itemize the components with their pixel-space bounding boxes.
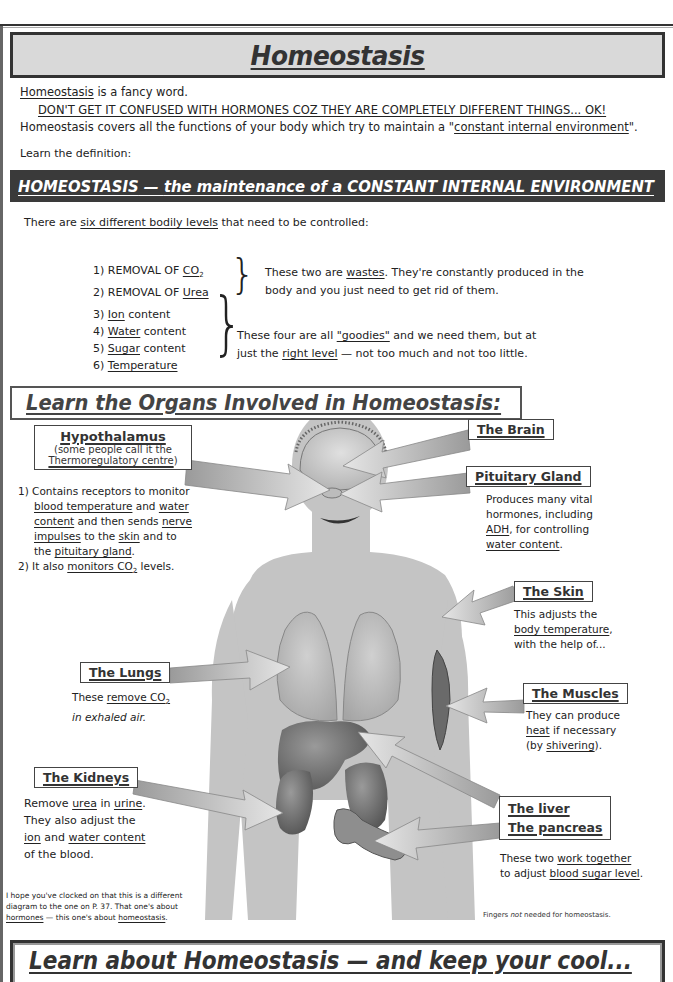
term-body-temperature: body temperature: [514, 623, 609, 635]
desc-line: 2) It also monitors CO2 levels.: [18, 559, 228, 579]
subscript: 2: [199, 271, 203, 279]
list-item-sugar: 5) Sugar content: [93, 340, 186, 357]
desc-text: , for controlling: [509, 523, 589, 535]
term-shivering: shivering: [546, 739, 594, 751]
paren: ): [174, 455, 178, 466]
desc-line: heat if necessary: [526, 723, 620, 738]
pancreas-title: The pancreas: [508, 818, 602, 837]
desc-text: in: [97, 797, 114, 810]
label-pituitary-gland: Pituitary Gland: [466, 466, 591, 487]
list-item-rest: content: [140, 342, 186, 355]
definition-body: the maintenance of a CONSTANT INTERNAL E…: [164, 177, 654, 196]
term-remove-co2: remove CO2: [107, 691, 170, 703]
page-title-box: Homeostasis: [10, 32, 665, 78]
desc-line: ion and water content: [24, 829, 146, 846]
term-impulses: impulses: [34, 530, 81, 542]
desc-text: and to: [140, 530, 177, 542]
hypothalamus-title: Hypothalamus: [39, 429, 187, 444]
intro-line-1: Homeostasis is a fancy word.: [20, 85, 188, 99]
label-lungs: The Lungs: [80, 662, 170, 683]
desc-line: content and then sends nerve: [18, 514, 228, 529]
list-item-term: CO: [183, 264, 199, 277]
desc-text: and then sends: [74, 515, 162, 527]
term-skin: skin: [119, 530, 140, 542]
list-item-rest: content: [125, 308, 171, 321]
desc-text: .: [640, 867, 643, 879]
note-text: and we need them, but at: [390, 329, 537, 342]
note-text: body and you just need to get rid of the…: [265, 282, 625, 300]
desc-text: and: [132, 500, 158, 512]
term-adh: ADH: [486, 523, 509, 535]
note-text: just the: [237, 347, 282, 360]
brain-title: The Brain: [477, 422, 545, 437]
term-hormones: hormones: [6, 913, 43, 922]
skin-title: The Skin: [523, 584, 584, 599]
desc-line: impulses to the skin and to: [18, 529, 228, 544]
intro-line-1-text: is a fancy word.: [94, 85, 188, 99]
definition-bar: HOMEOSTASIS — the maintenance of a CONST…: [10, 170, 665, 202]
desc-text: (by: [526, 739, 546, 751]
list-item-term: Sugar: [108, 342, 140, 355]
wastes-list: 1) REMOVAL OF CO2 2) REMOVAL OF Urea: [93, 262, 209, 301]
liver-title: The liver: [508, 799, 602, 818]
intro-line-3: Homeostasis covers all the functions of …: [20, 120, 638, 134]
note-text: These two are: [265, 266, 346, 279]
fingers-emphasis: not: [510, 911, 521, 919]
intro-term-constant-env: constant internal environment: [454, 120, 629, 134]
term-urine: urine: [114, 797, 142, 810]
desc-text: .: [132, 545, 135, 557]
six-levels-intro: There are six different bodily levels th…: [24, 216, 369, 229]
thermoregulatory-term: Thermoregulatory centre: [48, 455, 173, 466]
definition-text: HOMEOSTASIS — the maintenance of a CONST…: [18, 177, 654, 196]
desc-text: .: [142, 797, 146, 810]
list-item-num: 3): [93, 308, 108, 321]
desc-text: if necessary: [550, 724, 617, 736]
desc-line: water content.: [486, 537, 593, 552]
desc-line: ADH, for controlling: [486, 522, 593, 537]
footer-text: I hope you've clocked on that this is a …: [6, 891, 182, 911]
list-item-term: Water: [108, 325, 141, 338]
intro-line-3-end: ".: [629, 120, 638, 134]
list-item-prefix: 2) REMOVAL OF: [93, 286, 183, 299]
note-term-right-level: right level: [282, 347, 338, 360]
note-text: These four are all: [237, 329, 337, 342]
list-item-prefix: 1) REMOVAL OF: [93, 264, 183, 277]
term-urea: urea: [72, 797, 97, 810]
desc-text: to the: [81, 530, 119, 542]
term-text: remove CO: [107, 691, 166, 703]
desc-text: These two: [500, 852, 557, 864]
note-text: . They're constantly produced in the: [385, 266, 584, 279]
list-item-term: Ion: [108, 308, 125, 321]
pituitary-title: Pituitary Gland: [475, 469, 582, 484]
term-nerve: nerve: [162, 515, 192, 527]
intro-warning: DON'T GET IT CONFUSED WITH HORMONES COZ …: [38, 103, 606, 117]
desc-line: These two work together: [500, 851, 643, 866]
desc-line: blood temperature and water: [18, 499, 228, 514]
desc-text: 2) It also: [18, 560, 67, 572]
desc-line: (by shivering).: [526, 738, 620, 753]
label-skin: The Skin: [514, 581, 593, 602]
term-pituitary-gland: pituitary gland: [55, 545, 132, 557]
list-item-co2: 1) REMOVAL OF CO2: [93, 262, 209, 284]
list-item-num: 4): [93, 325, 108, 338]
fingers-text: needed for homeostasis.: [522, 911, 611, 919]
desc-line: of the blood.: [24, 846, 146, 863]
kidney-icon: [276, 770, 313, 835]
desc-line: the pituitary gland.: [18, 544, 228, 559]
subscript: 2: [166, 698, 170, 706]
bottom-summary-title: Learn about Homeostasis — and keep your …: [29, 947, 632, 975]
label-liver-pancreas: The liver The pancreas: [499, 796, 611, 840]
desc-text: ,: [609, 623, 612, 635]
intro-term-homeostasis: Homeostasis: [20, 85, 94, 99]
desc-text: and: [41, 831, 69, 844]
desc-text: .: [559, 538, 562, 550]
desc-line: body temperature,: [514, 622, 613, 637]
term-content: content: [34, 515, 74, 527]
desc-line: They also adjust the: [24, 812, 146, 829]
desc-line: hormones, including: [486, 507, 593, 522]
label-muscles: The Muscles: [523, 683, 628, 704]
kidneys-title: The Kidneys: [43, 770, 129, 785]
organs-section-title: Learn the Organs Involved in Homeostasis…: [26, 391, 501, 415]
footer-text: .: [165, 913, 167, 922]
label-hypothalamus: Hypothalamus (some people call it the Th…: [34, 425, 192, 470]
